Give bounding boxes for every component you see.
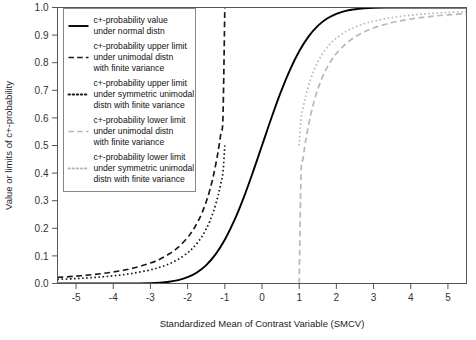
legend-label-0-1: under normal distn bbox=[94, 26, 165, 36]
x-axis-title: Standardized Mean of Contrast Variable (… bbox=[160, 318, 365, 329]
x-tick-label-8: 3 bbox=[371, 292, 377, 303]
legend-label-4-1: under symmetric unimodal bbox=[94, 163, 195, 173]
x-tick-label-4: -1 bbox=[220, 292, 229, 303]
x-tick-label-7: 2 bbox=[334, 292, 340, 303]
y-tick-label-5: 0.5 bbox=[35, 140, 49, 151]
x-tick-label-2: -3 bbox=[146, 292, 155, 303]
chart-legend[interactable]: c+-probability valueunder normal distnc+… bbox=[64, 9, 196, 192]
legend-label-4-0: c+-probability lower limit bbox=[94, 152, 187, 162]
y-tick-label-4: 0.4 bbox=[35, 168, 49, 179]
y-tick-label-0: 0.0 bbox=[35, 278, 49, 289]
legend-label-1-0: c+-probability upper limit bbox=[94, 41, 188, 51]
y-tick-label-1: 0.1 bbox=[35, 251, 49, 262]
x-tick-label-6: 1 bbox=[296, 292, 302, 303]
legend-label-3-0: c+-probability lower limit bbox=[94, 115, 187, 125]
legend-label-1-1: under unimodal distn bbox=[94, 52, 174, 62]
legend-label-2-1: under symmetric unimodal bbox=[94, 89, 195, 99]
x-tick-label-9: 4 bbox=[408, 292, 414, 303]
x-tick-label-5: 0 bbox=[259, 292, 265, 303]
legend-label-1-2: with finite variance bbox=[93, 63, 165, 73]
x-tick-label-10: 5 bbox=[445, 292, 451, 303]
chart-svg: -5-4-3-2-10123450.00.10.20.30.40.50.60.7… bbox=[0, 0, 476, 340]
x-tick-label-3: -2 bbox=[183, 292, 192, 303]
x-tick-label-0: -5 bbox=[72, 292, 81, 303]
y-axis-title: Value or limits of c+-probability bbox=[3, 81, 14, 210]
y-tick-label-9: 0.9 bbox=[35, 30, 49, 41]
chart-figure: -5-4-3-2-10123450.00.10.20.30.40.50.60.7… bbox=[0, 0, 476, 340]
legend-label-3-2: with finite variance bbox=[93, 137, 165, 147]
y-tick-label-8: 0.8 bbox=[35, 57, 49, 68]
legend-label-2-0: c+-probability upper limit bbox=[94, 78, 188, 88]
legend-label-3-1: under unimodal distn bbox=[94, 126, 174, 136]
y-tick-label-7: 0.7 bbox=[35, 85, 49, 96]
y-tick-label-2: 0.2 bbox=[35, 223, 49, 234]
legend-label-0-0: c+-probability value bbox=[94, 15, 169, 25]
y-tick-label-6: 0.6 bbox=[35, 113, 49, 124]
y-tick-label-3: 0.3 bbox=[35, 195, 49, 206]
y-tick-label-10: 1.0 bbox=[35, 2, 49, 13]
x-tick-label-1: -4 bbox=[109, 292, 118, 303]
legend-label-4-2: distn with finite variance bbox=[94, 174, 185, 184]
legend-label-2-2: distn with finite variance bbox=[94, 100, 185, 110]
